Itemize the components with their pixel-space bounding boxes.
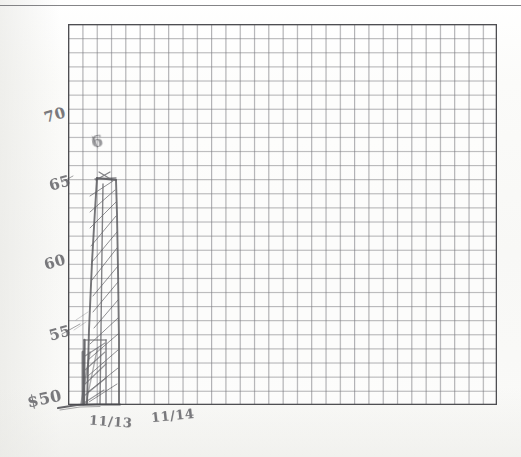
baseline-stroke — [58, 405, 120, 411]
y-tick-label-70: 70 — [42, 103, 68, 126]
plot-grid — [68, 24, 497, 405]
x-tick-label-11-13: 11/13 — [89, 413, 133, 431]
y-tick-label-50-dollar: $50 — [25, 386, 63, 412]
y-tick-label-60: 60 — [42, 250, 68, 273]
x-tick-label-11-14: 11/14 — [150, 406, 195, 425]
top-ruled-line — [0, 5, 521, 6]
graph-paper-page: 70 65 60 55 $50 11/13 11/14 6 — [0, 0, 521, 457]
